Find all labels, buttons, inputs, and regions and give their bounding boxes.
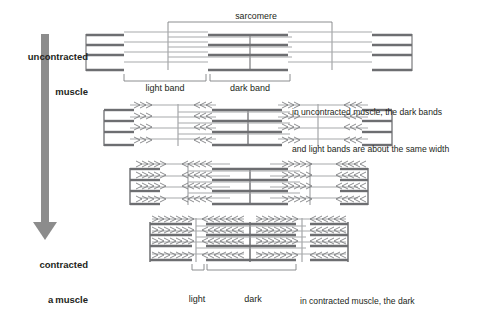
light-band-label-top: light band <box>124 83 206 94</box>
muscle-contraction-figure: uncontracted muscle contracted muscle a … <box>0 0 488 320</box>
actin-filaments-stage1 <box>124 32 372 62</box>
dark-band-bracket-bottom <box>207 264 296 270</box>
light-band-bracket-top <box>124 74 206 81</box>
dark-band-label-bottom-line1: dark <box>230 294 276 305</box>
light-band-label-bottom: light band <box>174 272 220 320</box>
contracted-muscle-label: contracted muscle <box>8 236 88 320</box>
stage-1-uncontracted <box>86 22 412 81</box>
uncontracted-muscle-label-line1: uncontracted <box>8 51 88 63</box>
uncontracted-note: in uncontracted muscle, the dark bands a… <box>292 81 488 181</box>
uncontracted-muscle-label-line2: muscle <box>8 86 88 98</box>
panel-letter: a <box>48 294 53 306</box>
contracted-note-line1: in contracted muscle, the dark <box>300 295 488 307</box>
dark-band-bracket-top <box>210 74 290 81</box>
contracted-note: in contracted muscle, the dark bands are… <box>300 270 488 320</box>
uncontracted-muscle-label: uncontracted muscle <box>8 28 88 121</box>
uncontracted-note-line1: in uncontracted muscle, the dark bands <box>292 106 488 118</box>
light-band-bracket-bottom <box>192 264 204 270</box>
dark-band-label-top: dark band <box>210 83 290 94</box>
sarcomere-label: sarcomere <box>0 11 488 22</box>
contracted-muscle-label-line1: contracted <box>8 259 88 271</box>
sarcomere-bracket <box>168 22 332 30</box>
dark-band-label-bottom: dark band <box>230 272 276 320</box>
light-band-label-bottom-line1: light <box>174 294 220 305</box>
uncontracted-note-line2: and light bands are about the same width <box>292 143 488 155</box>
stage-4-contracted <box>150 216 348 270</box>
